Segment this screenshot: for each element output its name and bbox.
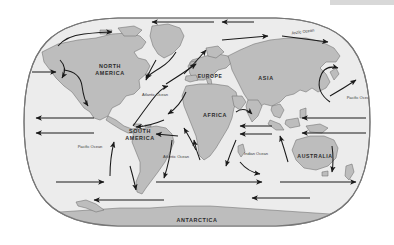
land-philippines — [300, 108, 306, 118]
label-south-atlantic-ocean: Atlantic Ocean — [163, 154, 189, 159]
label-south-america-line2: AMERICA — [125, 135, 154, 141]
top-edge-strip — [330, 0, 394, 5]
label-east-pacific-ocean: Pacific Ocean — [347, 95, 372, 100]
label-australia: AUSTRALIA — [297, 153, 332, 159]
label-asia: ASIA — [258, 75, 273, 81]
label-indian-ocean: Indian Ocean — [244, 151, 268, 156]
label-south-america-line1: SOUTH — [129, 128, 151, 134]
label-europe: EUROPE — [198, 73, 223, 79]
label-africa: AFRICA — [203, 112, 227, 118]
map-canvas: NORTH AMERICA SOUTH AMERICA EUROPE AFRIC… — [0, 0, 394, 245]
label-antarctica: ANTARCTICA — [177, 217, 218, 223]
label-south-pacific-ocean: Pacific Ocean — [78, 144, 103, 149]
world-ocean-currents-map: NORTH AMERICA SOUTH AMERICA EUROPE AFRIC… — [0, 0, 394, 245]
land-tasmania — [322, 171, 328, 176]
label-north-america-line1: NORTH — [99, 63, 121, 69]
label-north-atlantic-ocean: Atlantic Ocean — [142, 92, 168, 97]
label-north-america-line2: AMERICA — [95, 70, 124, 76]
